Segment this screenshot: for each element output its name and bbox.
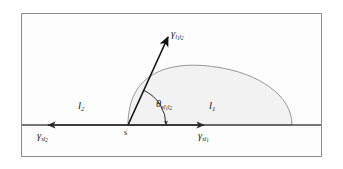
sub-index-second: 2 bbox=[170, 105, 172, 111]
sub-index-second: 2 bbox=[181, 35, 183, 41]
label-gamma-sl1: γsl1 bbox=[198, 131, 209, 143]
gamma-sl1-subscript: sl1 bbox=[202, 135, 209, 142]
region-l1-index: 1 bbox=[212, 105, 215, 112]
label-contact-point-s: s bbox=[124, 128, 127, 137]
theta-subscript: sl1l2 bbox=[161, 103, 172, 110]
gamma-l1l2-subscript: l1l2 bbox=[175, 33, 183, 40]
label-contact-angle: θsl1l2 bbox=[156, 99, 172, 111]
region-l2-index: 2 bbox=[81, 105, 84, 112]
label-gamma-sl2: γsl2 bbox=[37, 131, 48, 143]
label-gamma-l1l2: γl1l2 bbox=[171, 29, 184, 41]
label-region-l2: l2 bbox=[78, 100, 84, 113]
sub-index: 2 bbox=[45, 137, 47, 143]
figure-canvas bbox=[0, 0, 343, 169]
label-region-l1: l1 bbox=[209, 100, 215, 113]
gamma-sl2-subscript: sl2 bbox=[41, 135, 48, 142]
sub-index: 1 bbox=[206, 137, 208, 143]
contact-angle-figure: γl1l2 γsl2 γsl1 θsl1l2 l1 l2 s bbox=[0, 0, 343, 169]
